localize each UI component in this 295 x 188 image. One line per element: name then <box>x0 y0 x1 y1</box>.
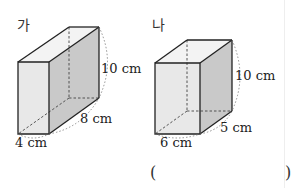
answer-blank[interactable] <box>180 165 280 185</box>
dimension-width-ga: 4 cm <box>15 135 47 150</box>
answer-close-paren: ) <box>285 163 291 182</box>
dimension-height-ga: 10 cm <box>101 61 141 76</box>
prism-na-front-face <box>155 63 200 134</box>
dimension-height-na: 10 cm <box>235 68 275 83</box>
prism-ga-front-face <box>18 62 49 134</box>
dimension-width-na: 6 cm <box>160 135 192 150</box>
dimension-depth-ga: 8 cm <box>80 111 112 126</box>
figure-label-ga: 가 <box>17 14 30 34</box>
answer-open-paren: ( <box>150 163 156 182</box>
prisms-diagram <box>0 0 295 188</box>
figure-label-na: 나 <box>152 14 165 34</box>
dimension-depth-na: 5 cm <box>220 120 252 135</box>
